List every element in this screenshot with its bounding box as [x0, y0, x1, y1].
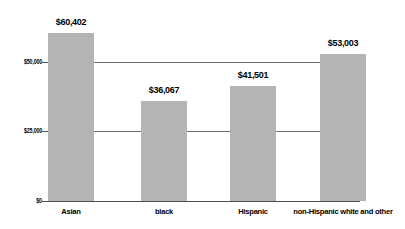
bar-asian [48, 33, 94, 201]
category-label-hispanic: Hispanic [213, 207, 293, 217]
bar-non-hispanic-white-and-other [320, 54, 366, 201]
gridline-50000 [48, 62, 359, 63]
category-label-asian: Asian [31, 207, 111, 217]
value-label-non-hispanic-white-and-other: $53,003 [303, 38, 383, 49]
gridline-25000 [48, 131, 359, 132]
ytick-label-0-wrap: $0 [0, 197, 42, 205]
bar-chart: $50,000 $25,000 $0 $60,402 $36,067 $41,5… [0, 0, 405, 229]
x-axis-baseline [46, 201, 360, 202]
category-label-black: black [124, 207, 204, 217]
value-label-asian: $60,402 [31, 17, 111, 28]
category-label-non-hispanic-white-and-other: non-Hispanic white and other [283, 207, 403, 217]
ytick-label-25000-wrap: $25,000 [0, 127, 42, 135]
ytick-label-50000-wrap: $50,000 [0, 58, 42, 66]
ytick-label-0: $0 [36, 197, 42, 205]
value-label-black: $36,067 [124, 85, 204, 96]
ytick-label-25000: $25,000 [24, 127, 42, 135]
bar-black [141, 101, 187, 201]
ytick-label-50000: $50,000 [24, 58, 42, 66]
value-label-hispanic: $41,501 [213, 70, 293, 81]
bar-hispanic [230, 86, 276, 201]
